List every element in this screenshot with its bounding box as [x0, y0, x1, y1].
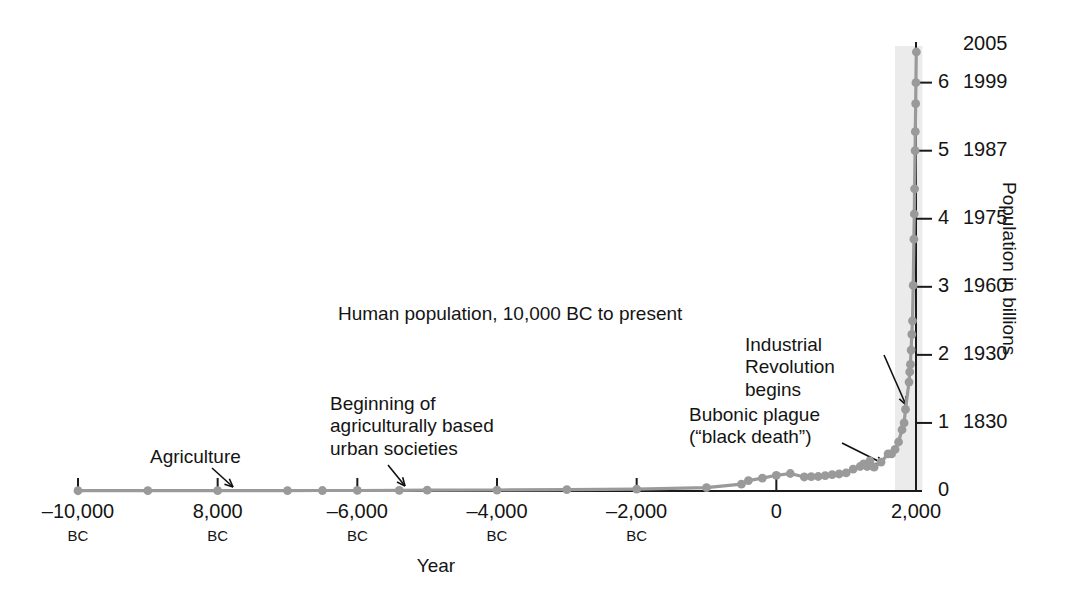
annotation-plague-line2: (“black death”)	[689, 426, 812, 447]
x-tick-sublabel-1: BC	[143, 527, 293, 545]
annotation-urban-societies: Beginning ofagriculturally basedurban so…	[330, 393, 494, 460]
y-axis-top-year-label: 2005	[963, 32, 1033, 56]
annotation-agriculture-line1: Agriculture	[150, 446, 241, 467]
recent-era-shaded-band	[895, 46, 922, 491]
x-tick-label-5: 0	[701, 500, 851, 524]
x-axis-title: Year	[361, 555, 511, 577]
y-tick-year-4: 1975	[963, 206, 1033, 230]
y-tick-year-6: 1999	[963, 70, 1033, 94]
annotation-urban-line1: Beginning of	[330, 393, 436, 414]
annotation-plague-line1: Bubonic plague	[689, 404, 820, 425]
x-tick-sublabel-2: BC	[282, 527, 432, 545]
y-tick-label-0: 0	[938, 478, 968, 502]
annotation-industrial-line3: begins	[745, 379, 801, 400]
y-tick-year-3: 1960	[963, 274, 1033, 298]
x-tick-sublabel-3: BC	[422, 527, 572, 545]
x-tick-label-0: –10,000	[3, 500, 153, 524]
annotation-urban-line3: urban societies	[330, 438, 458, 459]
x-tick-sublabel-4: BC	[562, 527, 712, 545]
x-tick-label-4: –2,000	[562, 500, 712, 524]
annotation-industrial-revolution: IndustrialRevolutionbegins	[745, 334, 835, 401]
x-tick-label-1: 8,000	[143, 500, 293, 524]
y-tick-year-1: 1830	[963, 410, 1033, 434]
x-tick-label-2: –6,000	[282, 500, 432, 524]
annotation-bubonic-plague: Bubonic plague(“black death”)	[689, 404, 820, 449]
annotation-industrial-line1: Industrial	[745, 334, 822, 355]
y-tick-year-5: 1987	[963, 138, 1033, 162]
y-tick-year-2: 1930	[963, 342, 1033, 366]
chart-title: Human population, 10,000 BC to present	[338, 303, 682, 325]
x-tick-label-3: –4,000	[422, 500, 572, 524]
annotation-industrial-line2: Revolution	[745, 356, 835, 377]
population-chart-figure: Human population, 10,000 BC to present A…	[0, 0, 1085, 609]
x-tick-label-6: 2,000	[841, 500, 991, 524]
annotation-urban-line2: agriculturally based	[330, 415, 494, 436]
annotation-agriculture: Agriculture	[150, 446, 241, 468]
x-tick-sublabel-0: BC	[3, 527, 153, 545]
